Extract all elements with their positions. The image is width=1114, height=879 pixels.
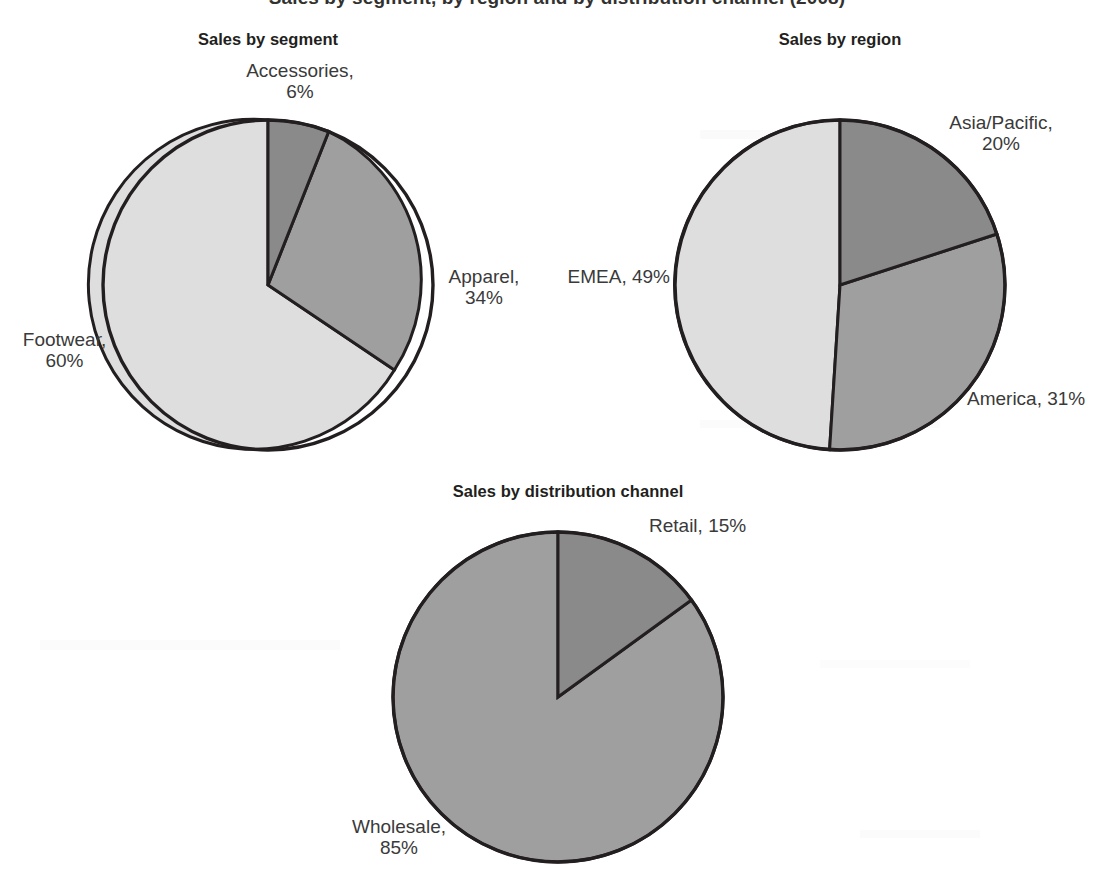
chart-sales-by-distribution-channel: Sales by distribution channel Retail, 15… <box>280 470 840 879</box>
chart-sales-by-segment: Sales by segment Accessories, 6% Apparel… <box>0 0 540 470</box>
scan-artifact <box>860 830 980 838</box>
pie-label-wholesale: Wholesale, 85% <box>324 816 474 859</box>
pie-slice-emea[interactable] <box>675 120 840 450</box>
pie-sales-by-region <box>675 120 1005 450</box>
pie-label-emea: EMEA, 49% <box>510 266 670 287</box>
pie-label-america: America, 31% <box>967 388 1114 409</box>
chart-title-sales-by-segment: Sales by segment <box>88 30 448 49</box>
pie-label-accessories: Accessories, 6% <box>205 60 395 103</box>
scan-artifact <box>820 660 970 668</box>
pie-sales-by-distribution-channel <box>393 532 723 862</box>
chart-title-sales-by-distribution-channel: Sales by distribution channel <box>378 482 758 501</box>
chart-title-sales-by-region: Sales by region <box>660 30 1020 49</box>
chart-sales-by-region: Sales by region Asia/Pacific, 20% Americ… <box>540 0 1114 470</box>
page-canvas: Sales by segment, by region and by distr… <box>0 0 1114 879</box>
pie-label-asia-pacific: Asia/Pacific, 20% <box>906 112 1096 155</box>
pie-label-footwear: Footwear, 60% <box>2 329 127 372</box>
pie-label-retail: Retail, 15% <box>649 515 839 536</box>
pie-sales-by-segment <box>103 120 433 450</box>
